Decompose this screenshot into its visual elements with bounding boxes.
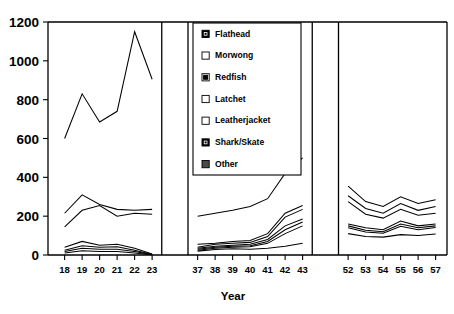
x-tick-label: 20: [94, 264, 105, 275]
x-tick-label: 23: [147, 264, 158, 275]
series-line-other-panel-3: [348, 234, 436, 238]
line-chart: 120010008006004002000 181920212223373839…: [0, 0, 454, 314]
x-tick-label: 40: [245, 264, 256, 275]
legend-label-morwong: Morwong: [215, 50, 253, 60]
y-tick-label: 600: [16, 132, 39, 147]
x-tick-label: 42: [280, 264, 291, 275]
legend-label-other: Other: [215, 159, 239, 169]
legend-swatch-inner: [204, 75, 208, 79]
legend-swatch-other: [202, 161, 209, 168]
x-tick-label: 55: [395, 264, 406, 275]
x-tick-label: 37: [192, 264, 203, 275]
x-tick-label: 21: [112, 264, 123, 275]
legend-swatch-leatherjacket: [202, 117, 209, 124]
x-tick-label: 18: [59, 264, 70, 275]
legend-label-redfish: Redfish: [215, 72, 247, 82]
x-axis: 18192021222337383940414243525354555657: [48, 255, 447, 275]
x-tick-label: 38: [210, 264, 221, 275]
y-tick-label: 400: [16, 170, 39, 185]
x-tick-label: 54: [378, 264, 389, 275]
y-tick-label: 1000: [9, 54, 39, 69]
series-line-latchet-panel-3: [348, 221, 436, 230]
legend-label-flathead: Flathead: [215, 29, 250, 39]
legend-swatch-latchet: [202, 95, 209, 102]
y-tick-label: 1200: [9, 15, 39, 30]
series-line-flathead-panel-3: [348, 186, 436, 206]
y-tick-label: 0: [31, 248, 39, 263]
y-axis: 120010008006004002000: [9, 15, 48, 263]
series-line-flathead-panel-1: [65, 32, 153, 139]
x-tick-label: 53: [360, 264, 371, 275]
y-tick-label: 200: [16, 209, 39, 224]
x-tick-label: 52: [343, 264, 354, 275]
legend-swatch-morwong: [202, 52, 209, 59]
chart-legend: FlatheadMorwongRedfishLatchetLeatherjack…: [193, 23, 301, 175]
x-tick-label: 43: [297, 264, 308, 275]
x-axis-title: Year: [221, 290, 246, 302]
x-tick-label: 19: [77, 264, 88, 275]
series-line-redfish-panel-1: [65, 205, 153, 226]
x-tick-label: 57: [430, 264, 441, 275]
legend-label-shark-skate: Shark/Skate: [215, 137, 264, 147]
series-line-redfish-panel-2: [198, 209, 303, 247]
x-tick-label: 56: [413, 264, 424, 275]
legend-label-leatherjacket: Leatherjacket: [215, 115, 271, 125]
x-tick-label: 22: [129, 264, 140, 275]
chart-container: 120010008006004002000 181920212223373839…: [0, 0, 454, 314]
legend-swatch-core: [205, 33, 207, 35]
x-tick-label: 39: [227, 264, 238, 275]
legend-label-latchet: Latchet: [215, 94, 246, 104]
legend-swatch-core: [205, 141, 207, 143]
y-tick-label: 800: [16, 93, 39, 108]
x-tick-label: 41: [262, 264, 273, 275]
